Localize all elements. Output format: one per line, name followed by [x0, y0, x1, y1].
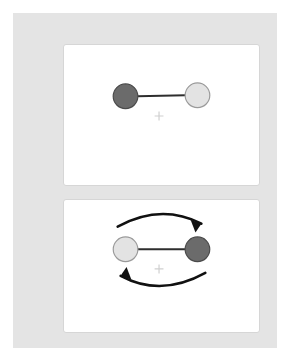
fixation-cross: [155, 265, 164, 274]
figure-root: [0, 0, 289, 356]
initial-configuration-panel: [63, 44, 260, 186]
initial-configuration-stimulus: [64, 45, 259, 185]
dark-ball: [113, 84, 138, 109]
dark-ball: [185, 237, 210, 262]
rotated-configuration-panel: [63, 199, 260, 333]
rotated-configuration-stimulus: [64, 200, 259, 332]
light-ball: [185, 83, 210, 108]
fixation-cross: [155, 112, 164, 121]
rotation-arrow-top: [118, 214, 202, 227]
rotation-arrow-bottom: [121, 273, 206, 286]
light-ball: [113, 237, 138, 262]
connecting-rod: [137, 95, 185, 96]
figure-canvas: [13, 13, 277, 348]
